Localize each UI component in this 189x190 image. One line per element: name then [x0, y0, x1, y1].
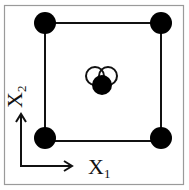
diagram-frame: X1 X2	[0, 0, 189, 190]
x2-axis-label: X2	[2, 86, 29, 108]
center-point-filled	[92, 75, 112, 95]
corner-point-high-right	[150, 12, 172, 34]
corner-point-low-right	[150, 127, 172, 149]
corner-point-low-left	[34, 127, 56, 149]
corner-point-high-left	[34, 12, 56, 34]
x1-axis-label: X1	[88, 154, 110, 181]
